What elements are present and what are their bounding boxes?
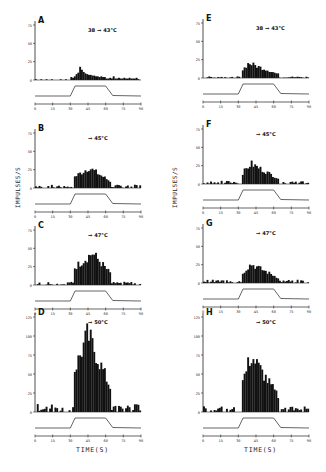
svg-text:60: 60 <box>104 312 108 316</box>
svg-text:45: 45 <box>86 312 90 316</box>
svg-text:60: 60 <box>272 105 276 109</box>
svg-text:25: 25 <box>28 60 32 64</box>
panel-letter: E <box>206 14 211 23</box>
svg-text:15: 15 <box>51 312 55 316</box>
temperature-trace <box>203 84 309 94</box>
figure: 0255075A38 → 43°C01530456075900255075B→ … <box>0 0 326 472</box>
stimulus-label: → 47°C <box>256 230 276 236</box>
panel-letter: A <box>38 16 45 25</box>
svg-text:90: 90 <box>307 211 311 215</box>
panel-E: 0255075E38 → 43°C0153045607590 <box>196 14 311 109</box>
svg-text:100: 100 <box>194 335 201 339</box>
svg-text:30: 30 <box>68 107 72 111</box>
svg-text:0: 0 <box>198 183 200 187</box>
svg-text:60: 60 <box>272 439 276 443</box>
svg-text:0: 0 <box>202 211 204 215</box>
temperature-trace <box>35 86 141 96</box>
svg-text:75: 75 <box>121 312 125 316</box>
temperature-trace <box>203 289 309 299</box>
panel-letter: G <box>206 219 213 228</box>
svg-text:15: 15 <box>51 215 55 219</box>
x-axis-label-right: TIME(S) <box>244 446 277 454</box>
svg-text:15: 15 <box>219 105 223 109</box>
stimulus-label: 38 → 43°C <box>256 25 285 31</box>
svg-text:15: 15 <box>219 439 223 443</box>
svg-text:125: 125 <box>26 316 33 320</box>
svg-text:90: 90 <box>139 107 143 111</box>
svg-text:60: 60 <box>272 310 276 314</box>
stimulus-label: → 45°C <box>88 135 108 141</box>
svg-text:90: 90 <box>307 310 311 314</box>
svg-text:75: 75 <box>196 128 200 132</box>
svg-text:50: 50 <box>196 373 200 377</box>
panel-F: 0255075F→ 45°C0153045607590 <box>196 120 311 215</box>
svg-text:30: 30 <box>236 310 240 314</box>
svg-text:60: 60 <box>104 107 108 111</box>
svg-text:50: 50 <box>28 150 32 154</box>
svg-text:25: 25 <box>28 265 32 269</box>
stimulus-label: → 45°C <box>256 131 276 137</box>
panel-D: 0255075100125D→ 50°C0153045607590 <box>26 308 144 443</box>
svg-text:75: 75 <box>289 105 293 109</box>
temperature-trace <box>35 291 141 301</box>
svg-text:90: 90 <box>139 439 143 443</box>
svg-text:0: 0 <box>34 439 36 443</box>
panel-H: 0255075100125H→ 50°C0153045607590 <box>194 308 312 443</box>
svg-text:75: 75 <box>196 227 200 231</box>
svg-text:75: 75 <box>121 107 125 111</box>
svg-text:30: 30 <box>236 105 240 109</box>
svg-text:15: 15 <box>219 211 223 215</box>
stimulus-label: 38 → 43°C <box>88 27 117 33</box>
svg-text:0: 0 <box>30 284 32 288</box>
svg-text:0: 0 <box>202 310 204 314</box>
svg-text:25: 25 <box>28 168 32 172</box>
svg-text:60: 60 <box>104 215 108 219</box>
stimulus-label: → 50°C <box>256 319 276 325</box>
x-axis-label-left: TIME(S) <box>76 446 109 454</box>
svg-text:25: 25 <box>196 58 200 62</box>
panel-letter: B <box>38 124 44 133</box>
svg-text:0: 0 <box>198 77 200 81</box>
temperature-trace <box>35 194 141 204</box>
svg-text:75: 75 <box>121 215 125 219</box>
svg-text:45: 45 <box>254 310 258 314</box>
svg-text:75: 75 <box>28 24 32 28</box>
svg-text:125: 125 <box>194 316 201 320</box>
svg-text:50: 50 <box>196 146 200 150</box>
stimulus-label: → 47°C <box>88 232 108 238</box>
svg-text:100: 100 <box>26 335 33 339</box>
svg-text:0: 0 <box>34 215 36 219</box>
panel-letter: F <box>206 120 211 129</box>
svg-text:15: 15 <box>51 107 55 111</box>
svg-text:50: 50 <box>28 373 32 377</box>
svg-text:0: 0 <box>198 411 200 415</box>
temperature-trace <box>203 190 309 200</box>
svg-text:90: 90 <box>307 105 311 109</box>
svg-text:0: 0 <box>34 107 36 111</box>
svg-text:30: 30 <box>68 439 72 443</box>
svg-text:45: 45 <box>254 105 258 109</box>
panel-B: 0255075B→ 45°C0153045607590 <box>28 124 143 219</box>
svg-text:25: 25 <box>196 164 200 168</box>
svg-text:25: 25 <box>196 263 200 267</box>
svg-text:60: 60 <box>104 439 108 443</box>
temperature-trace <box>35 418 141 428</box>
svg-text:75: 75 <box>28 354 32 358</box>
svg-text:50: 50 <box>196 245 200 249</box>
svg-text:90: 90 <box>307 439 311 443</box>
svg-text:75: 75 <box>121 439 125 443</box>
y-axis-label-right: IMPULSES/S <box>171 167 178 208</box>
temperature-trace <box>203 418 309 428</box>
svg-text:25: 25 <box>28 392 32 396</box>
panel-C: 0255075C→ 47°C0153045607590 <box>28 221 143 316</box>
svg-text:45: 45 <box>254 439 258 443</box>
svg-text:30: 30 <box>236 439 240 443</box>
svg-text:50: 50 <box>28 42 32 46</box>
panel-letter: H <box>206 308 213 317</box>
svg-text:45: 45 <box>254 211 258 215</box>
svg-text:15: 15 <box>219 310 223 314</box>
svg-text:0: 0 <box>202 105 204 109</box>
panel-G: 0255075G→ 47°C0153045607590 <box>196 219 311 314</box>
svg-text:50: 50 <box>28 247 32 251</box>
svg-text:0: 0 <box>30 411 32 415</box>
